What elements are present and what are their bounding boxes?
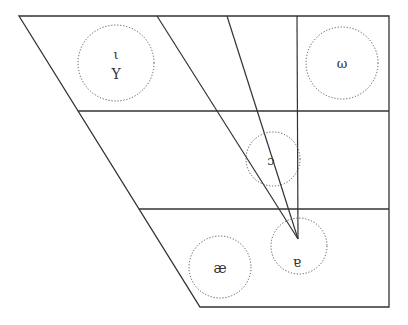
radiating-line-2: [227, 16, 298, 239]
vowel-region-omega: ω: [306, 27, 378, 99]
vowel-region-ash: æ: [189, 236, 251, 298]
vowel-chart: ι Y ω ɔ æ ɐ: [0, 0, 408, 325]
vowel-region-iota-y: ι Y: [78, 25, 154, 101]
radiating-line-1: [157, 16, 298, 239]
vowel-symbol-y: Y: [110, 66, 121, 82]
vowel-symbol-open-o: ɔ: [267, 153, 274, 168]
vowel-region-turned-a: ɐ: [271, 218, 327, 274]
vowel-symbol-ash: æ: [213, 260, 226, 276]
vowel-symbol-turned-a: ɐ: [293, 254, 301, 270]
radiating-line-3-vertical: [297, 16, 298, 239]
vowel-symbol-iota: ι: [113, 47, 118, 62]
vowel-region-open-o: ɔ: [246, 132, 300, 186]
vowel-symbol-omega: ω: [337, 56, 348, 71]
vowel-quadrilateral-outline: [19, 16, 389, 307]
